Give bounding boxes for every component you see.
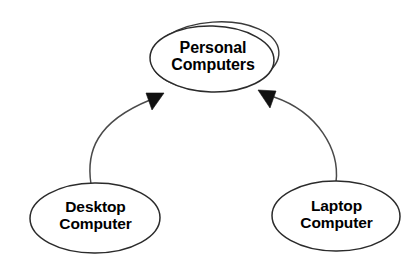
- edge-desktop-to-personal-arrowhead: [146, 93, 164, 110]
- node-laptop-computer[interactable]: [272, 180, 401, 251]
- edge-laptop-to-personal-line: [274, 97, 336, 182]
- node-desktop-computer[interactable]: [30, 182, 161, 253]
- edge-laptop-to-personal: [258, 90, 336, 182]
- node-personal-computers[interactable]: [149, 18, 281, 95]
- node-desktop-computer-outline: [30, 182, 161, 253]
- node-laptop-computer-outline: [272, 180, 401, 251]
- edge-desktop-to-personal-line: [90, 100, 150, 184]
- edge-laptop-to-personal-arrowhead: [258, 90, 276, 108]
- diagram-svg: [0, 0, 415, 280]
- edge-desktop-to-personal: [90, 93, 164, 184]
- node-personal-computers-outline: [149, 24, 275, 93]
- diagram-canvas: Personal Computers Desktop Computer Lapt…: [0, 0, 415, 280]
